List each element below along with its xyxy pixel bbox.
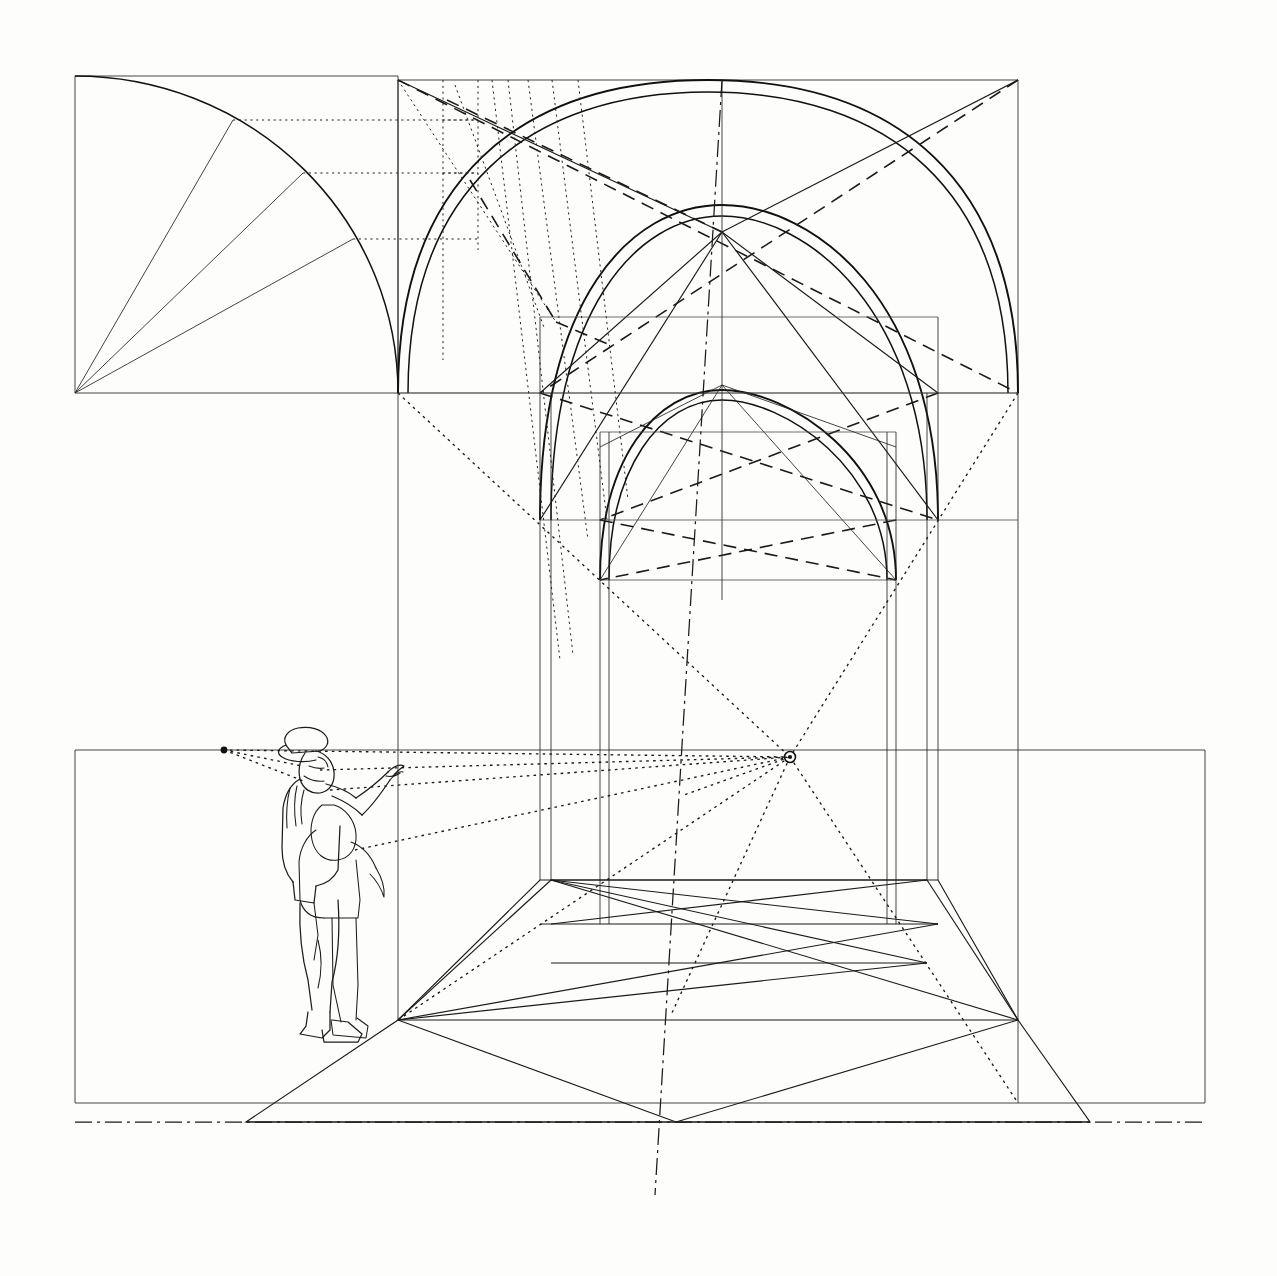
front-figure-face-detail [318, 757, 328, 767]
eye-to-vp-line [320, 757, 790, 770]
figure-front [279, 727, 404, 1042]
front-figure-face-detail-2 [309, 766, 324, 768]
vp-ray-lower-left [398, 757, 790, 1020]
rear-figure-hand [370, 868, 384, 897]
figure-rear [299, 805, 384, 1038]
dashed-helper-short [470, 180, 556, 322]
rib-rear-right [722, 385, 896, 447]
floor-left-recede [398, 880, 551, 1020]
quarter-circle-panel [75, 76, 478, 393]
floor-diag-b [398, 963, 927, 1020]
front-figure-leg-front [330, 900, 339, 1012]
architectural-perspective-drawing [0, 0, 1277, 1276]
dotted-ray-2 [508, 80, 573, 655]
dashed-diagonals [398, 80, 1018, 580]
ledge-lines [398, 317, 1018, 580]
rear-figure-leg-2 [356, 918, 358, 1020]
vp-ray-down-centre [671, 757, 790, 1015]
rib-front-right [722, 80, 1018, 232]
dotted-ray-1 [492, 80, 560, 660]
rib-secondary-right [722, 232, 938, 393]
vp-ray-short-left [684, 757, 790, 795]
floor-grid [246, 880, 1090, 1122]
radial-line-3 [75, 239, 353, 393]
dotted-construction-bundle [398, 80, 628, 660]
rib-rear-left-down [600, 385, 722, 580]
front-figure-hem [293, 882, 316, 903]
dashed-diagonal-down-right [398, 80, 1018, 393]
front-figure-hip [314, 903, 318, 960]
front-figure-head [299, 751, 334, 793]
eye-to-vp-line-3 [355, 757, 790, 850]
floor-outline [246, 880, 1090, 1122]
rib-back-right [722, 232, 938, 520]
front-figure-forearm-lower [362, 780, 390, 815]
ground-plane-frame [75, 750, 1205, 1122]
front-figure-shoe-front [322, 1020, 362, 1042]
front-figure-back-fold-2 [295, 786, 297, 826]
dashed-diagonal-down-left [540, 80, 1018, 393]
floor-right-recede [927, 880, 1018, 1020]
floor-diag-c [551, 880, 1018, 1020]
rib-front-left [398, 80, 722, 232]
elevation-frame [398, 80, 1018, 1103]
front-figure-leg-back [300, 903, 312, 1010]
floor-diag-d [551, 880, 927, 963]
dotted-ray-6 [455, 85, 545, 330]
front-figure-front-line [316, 826, 340, 886]
front-figure-hat [285, 727, 328, 753]
front-figure-leg-inner [318, 940, 321, 988]
floor-apex-right [676, 1020, 1018, 1122]
rear-figure-leg [332, 918, 341, 1022]
rear-figure-shoulder-left [299, 830, 324, 918]
front-figure-hat-brim [279, 745, 316, 762]
dashed-helper-tiny [556, 322, 610, 345]
floor-apex-left [398, 1020, 676, 1122]
sight-lines [224, 750, 790, 850]
radial-line-2 [75, 173, 303, 393]
sight-line-upper [224, 750, 302, 766]
third-arch-group [600, 390, 896, 580]
vp-ray-upper-left [398, 393, 790, 757]
front-figure-shoe-back [300, 1012, 330, 1038]
dashed-helper-upper-left [447, 100, 722, 232]
quarter-circle-arc [75, 76, 398, 393]
front-figure-face-detail-3 [304, 776, 324, 781]
drawing-canvas [0, 0, 1277, 1276]
rear-figure-torso [324, 860, 360, 918]
scale-figures [279, 727, 404, 1042]
vp-ray-to-measuring-point [224, 750, 790, 757]
vault-ribs-solid [398, 80, 1018, 580]
front-figure-back-fold-3 [301, 790, 304, 824]
front-figure-back [282, 779, 300, 882]
rear-figure-head [311, 805, 356, 860]
front-figure-forearm [356, 772, 388, 798]
front-arch-inner [408, 92, 1008, 393]
third-arch-outer [600, 390, 896, 580]
second-arch-inner [551, 216, 927, 520]
radial-line-1 [75, 120, 233, 393]
sight-line-lower [224, 750, 306, 782]
vp-ray-upper-right [790, 393, 1018, 757]
